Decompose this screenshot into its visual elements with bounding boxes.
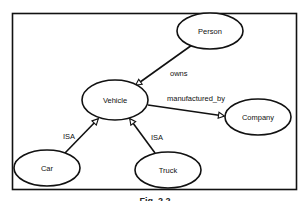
node-person-label: Person <box>198 27 222 36</box>
edge-owns-label: owns <box>170 69 188 78</box>
node-vehicle: Vehicle <box>82 80 148 120</box>
er-diagram: owns manufactured_by ISA ISA Person Vehi… <box>0 0 307 201</box>
edge-owns-line <box>136 45 192 85</box>
edge-car-isa: ISA <box>63 119 98 153</box>
node-car: Car <box>14 150 80 186</box>
node-truck: Truck <box>135 152 201 188</box>
node-company-label: Company <box>242 113 274 122</box>
edge-manufactured-by: manufactured_by <box>148 94 225 116</box>
node-vehicle-label: Vehicle <box>103 96 127 105</box>
edge-truck-isa: ISA <box>130 119 163 153</box>
figure-caption: Fig. 2.2 <box>139 196 170 201</box>
node-truck-label: Truck <box>159 166 178 175</box>
edge-owns: owns <box>136 45 192 85</box>
node-car-label: Car <box>41 164 54 173</box>
edge-truck-isa-label: ISA <box>151 133 163 142</box>
edge-car-isa-label: ISA <box>63 132 75 141</box>
node-company: Company <box>225 99 291 135</box>
edge-manufactured-by-line <box>148 105 224 116</box>
node-person: Person <box>177 13 243 49</box>
edge-manufactured-by-label: manufactured_by <box>167 94 225 103</box>
